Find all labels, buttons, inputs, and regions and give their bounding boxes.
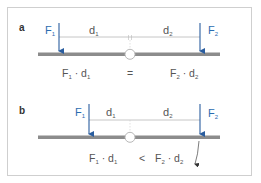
distance-label-d2-b: d2	[163, 107, 172, 119]
distance-label-d1-b: d1	[106, 107, 115, 119]
force-symbol: F	[45, 24, 52, 36]
force-subscript: 1	[82, 113, 85, 119]
pivot-icon	[125, 49, 135, 59]
force-symbol: F	[208, 107, 215, 119]
force-label-f2-b: F2	[208, 108, 218, 120]
rotation-arrow-icon	[195, 141, 199, 164]
eq-d-sub: 1	[87, 74, 90, 80]
lever-diagram	[0, 0, 261, 183]
equation-right-a: F2 · d2	[170, 68, 198, 80]
force-label-f1-a: F1	[45, 25, 55, 37]
eq-dot: ·	[75, 67, 79, 79]
panel-b-label: b	[19, 106, 25, 116]
equation-left-a: F1 · d1	[62, 68, 90, 80]
eq-dot: ·	[183, 67, 187, 79]
panel-a-graphic	[38, 23, 220, 59]
eq-f-sub: 1	[95, 159, 98, 165]
eq-f-sub: 2	[161, 159, 164, 165]
eq-dot: ·	[102, 152, 106, 164]
force-symbol: F	[208, 24, 215, 36]
equation-left-b: F1 · d1	[89, 153, 117, 165]
eq-dot: ·	[168, 152, 172, 164]
equation-right-b: F2 · d2	[155, 153, 183, 165]
force-subscript: 1	[52, 31, 55, 37]
equation-operator-a: =	[127, 68, 133, 79]
eq-f-sub: 1	[68, 74, 71, 80]
eq-f-sub: 2	[176, 74, 179, 80]
force-label-f2-a: F2	[208, 25, 218, 37]
force-label-f1-b: F1	[75, 107, 85, 119]
force-symbol: F	[75, 106, 82, 118]
force-subscript: 2	[215, 31, 218, 37]
eq-d-sub: 2	[180, 159, 183, 165]
eq-d-sub: 1	[114, 159, 117, 165]
panel-a-label: a	[19, 23, 25, 33]
distance-subscript: 2	[169, 31, 172, 37]
panel-b-graphic	[38, 104, 220, 164]
distance-label-d1-a: d1	[89, 25, 98, 37]
equation-operator-b: <	[139, 153, 145, 164]
pivot-icon	[125, 132, 135, 142]
distance-subscript: 1	[112, 113, 115, 119]
distance-subscript: 2	[169, 113, 172, 119]
distance-label-d2-a: d2	[163, 25, 172, 37]
force-subscript: 2	[215, 114, 218, 120]
distance-subscript: 1	[95, 31, 98, 37]
eq-d-sub: 2	[195, 74, 198, 80]
